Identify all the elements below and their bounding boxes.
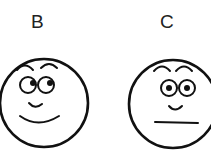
faces-diagram: B C — [0, 0, 211, 154]
face-b — [0, 59, 88, 147]
face-c — [129, 60, 211, 148]
face-b-outline — [0, 59, 88, 147]
face-c-left-eyebrow-icon — [154, 67, 170, 72]
face-b-right-pupil-icon — [47, 80, 53, 86]
face-b-nose-icon — [29, 103, 42, 107]
face-c-right-pupil-icon — [184, 85, 190, 91]
face-b-right-eyebrow-icon — [41, 64, 57, 68]
face-c-right-eyebrow-icon — [176, 67, 192, 72]
face-b-mouth-icon — [20, 116, 59, 123]
face-c-nose-icon — [169, 106, 182, 110]
faces-svg — [0, 0, 211, 154]
face-c-outline — [129, 60, 211, 148]
face-c-mouth-icon — [155, 122, 198, 123]
face-b-left-pupil-icon — [30, 80, 36, 86]
face-c-left-pupil-icon — [166, 85, 172, 91]
